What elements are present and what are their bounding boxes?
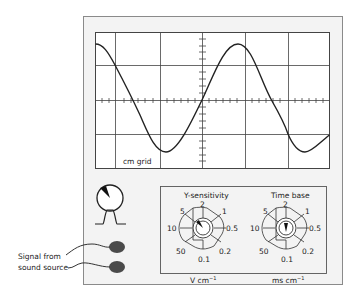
signal-caption-line2: sound source bbox=[18, 263, 68, 272]
y-label-10: 10 bbox=[167, 224, 177, 233]
t-label-1: 1 bbox=[305, 207, 310, 216]
t-label-2: 2 bbox=[283, 200, 288, 209]
y-label-1: 1 bbox=[222, 207, 227, 216]
y-sensitivity-title: Y-sensitivity bbox=[183, 191, 229, 200]
y-label-5: 5 bbox=[180, 207, 185, 216]
signal-caption-line1: Signal from bbox=[18, 252, 61, 261]
y-label-2: 2 bbox=[200, 200, 205, 209]
y-label-0.2: 0.2 bbox=[219, 247, 231, 256]
t-label-0.1: 0.1 bbox=[281, 255, 293, 264]
oscilloscope-diagram: cm grid Signal from sound source Y-sensi… bbox=[0, 0, 357, 301]
t-label-5: 5 bbox=[263, 207, 268, 216]
t-label-10: 10 bbox=[250, 224, 260, 233]
t-label-0.5: 0.5 bbox=[309, 224, 321, 233]
input-socket-2[interactable] bbox=[109, 261, 125, 273]
y-label-0.5: 0.5 bbox=[226, 224, 238, 233]
y-label-50: 50 bbox=[176, 247, 186, 256]
oscilloscope-screen: cm grid bbox=[96, 33, 330, 169]
t-label-0.2: 0.2 bbox=[302, 247, 314, 256]
grid-label: cm grid bbox=[123, 157, 152, 166]
y-label-0.1: 0.1 bbox=[198, 255, 210, 264]
input-socket-1[interactable] bbox=[109, 241, 125, 253]
time-base-title: Time base bbox=[270, 191, 310, 200]
t-label-50: 50 bbox=[259, 247, 269, 256]
